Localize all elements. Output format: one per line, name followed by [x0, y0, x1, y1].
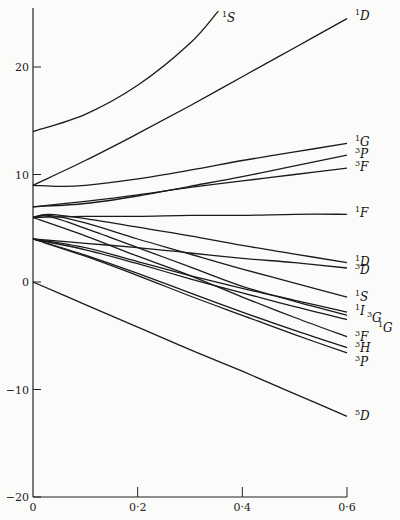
- series-label: 3H: [355, 340, 371, 355]
- series-line: [33, 11, 218, 131]
- series-line: [33, 239, 347, 353]
- series-line: [33, 168, 347, 207]
- series-label: 3F: [355, 159, 369, 174]
- series-label: 1G: [378, 320, 393, 335]
- series-line: [33, 216, 347, 316]
- series-line: [33, 239, 347, 320]
- series-lines: [33, 11, 347, 416]
- y-tick-label: −10: [6, 384, 29, 397]
- series-label: 5D: [355, 408, 370, 423]
- x-tick-label: 0·2: [129, 501, 147, 514]
- series-label: 1D: [355, 8, 370, 23]
- axes: 20100−10−2000·20·40·6: [6, 8, 356, 514]
- series-label: 1F: [355, 205, 369, 220]
- y-tick-label: 10: [15, 169, 29, 182]
- y-tick-label: 0: [22, 276, 29, 289]
- x-tick-label: 0: [30, 501, 37, 514]
- y-tick-label: −20: [6, 491, 29, 504]
- y-tick-label: 20: [15, 61, 29, 74]
- energy-level-chart: 20100−10−2000·20·40·6 1S1D1G3P3F1F1D3D1S…: [0, 0, 400, 520]
- series-label: 1S: [355, 289, 368, 304]
- x-tick-label: 0·4: [234, 501, 252, 514]
- series-label: 1S: [222, 10, 235, 25]
- series-label: 1I: [355, 303, 365, 318]
- series-label: 3D: [355, 262, 370, 277]
- series-label: 3P: [355, 354, 369, 369]
- series-line: [33, 215, 347, 297]
- series-line: [33, 214, 347, 217]
- x-tick-label: 0·6: [338, 501, 356, 514]
